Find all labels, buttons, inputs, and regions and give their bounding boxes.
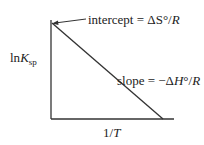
slope-text: slope = −Δ xyxy=(117,73,174,88)
intercept-arrow xyxy=(55,19,86,23)
ylabel-sub: sp xyxy=(29,57,37,67)
x-axis-label: 1/T xyxy=(103,126,120,139)
slope-var-h: H xyxy=(174,73,183,88)
intercept-var: R xyxy=(172,12,180,27)
y-axis-label: lnKsp xyxy=(10,51,37,67)
slope-mid: °/ xyxy=(183,73,192,88)
data-line xyxy=(52,23,163,119)
slope-annotation: slope = −ΔH°/R xyxy=(117,74,200,87)
ylabel-ln: ln xyxy=(10,50,20,65)
intercept-annotation: intercept = ΔS°/R xyxy=(88,13,180,26)
ylabel-var: K xyxy=(20,50,29,65)
xlabel-num: 1/ xyxy=(103,125,113,140)
slope-var-r: R xyxy=(192,73,200,88)
intercept-text: intercept = ΔS°/ xyxy=(88,12,172,27)
xlabel-var: T xyxy=(113,125,120,140)
